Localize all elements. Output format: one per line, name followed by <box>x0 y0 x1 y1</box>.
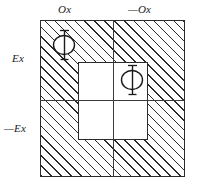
axis-label-ex-negative: —Ex <box>4 122 26 134</box>
axis-label-ex-positive: Ex <box>12 52 24 64</box>
figure-canvas: Ox —Ox Ex —Ex <box>0 0 197 194</box>
axis-label-ox-negative: —Ox <box>128 3 151 15</box>
inner-divider-horizontal <box>78 100 148 101</box>
axis-label-ox-positive: Ox <box>58 3 71 15</box>
phi-symbol-inner <box>119 63 145 97</box>
phi-symbol-outer <box>51 28 77 62</box>
phi-glyph-icon <box>119 63 145 97</box>
phi-glyph-icon <box>51 28 77 62</box>
